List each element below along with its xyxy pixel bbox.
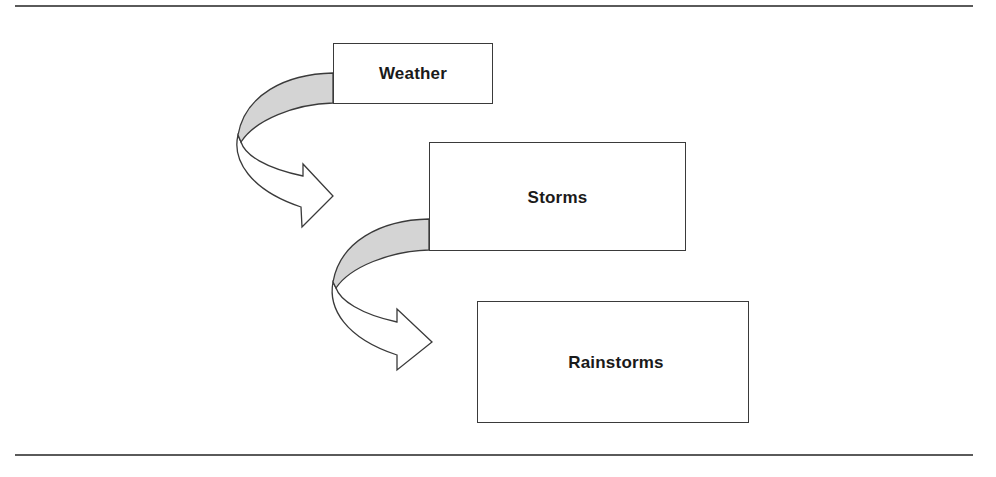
top-rule: [15, 5, 973, 7]
node-rainstorms: Rainstorms: [477, 301, 749, 423]
node-label-storms: Storms: [528, 188, 588, 208]
node-label-weather: Weather: [379, 64, 447, 84]
curved-arrow-icon-storms-to-rainstorms: [332, 219, 432, 370]
node-weather: Weather: [333, 43, 493, 104]
curved-arrow-icon-weather-to-storms: [237, 73, 333, 227]
bottom-rule: [15, 454, 973, 456]
node-label-rainstorms: Rainstorms: [568, 353, 664, 373]
node-storms: Storms: [429, 142, 686, 251]
